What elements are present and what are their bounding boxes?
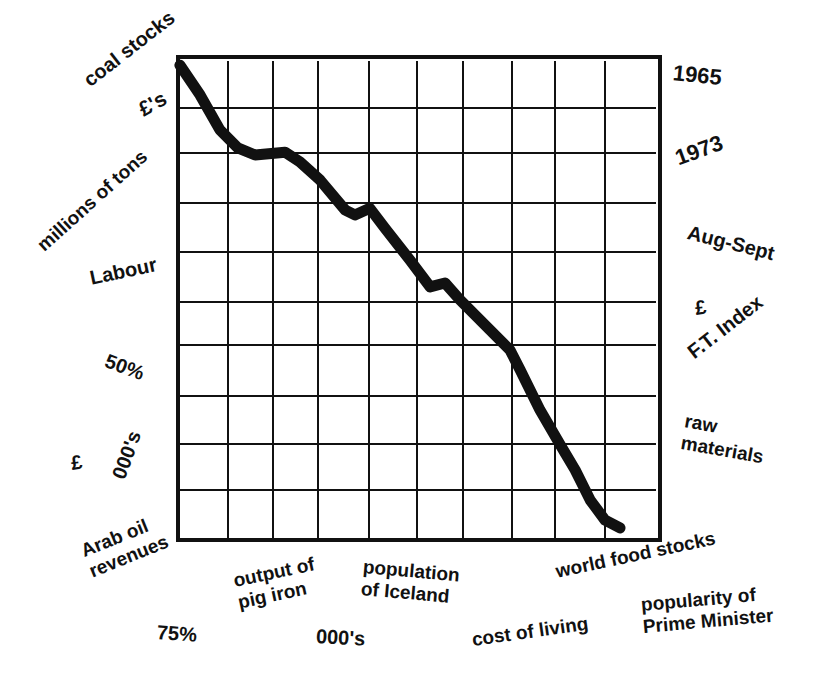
data-line: [180, 65, 620, 528]
label-population-of-iceland: population of Iceland: [360, 556, 461, 608]
grid-lines: [180, 61, 656, 538]
label-thousands-bottom: 000's: [315, 626, 365, 649]
label-1965: 1965: [672, 62, 723, 89]
label-seventy-five-percent: 75%: [156, 622, 197, 645]
plot-frame: [178, 57, 660, 540]
